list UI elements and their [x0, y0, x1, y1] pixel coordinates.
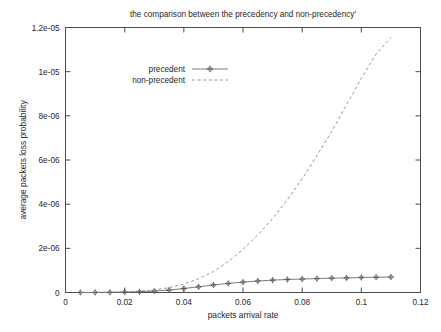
- y-tick-label: 2e-06: [39, 244, 60, 253]
- x-tick-label: 0.1: [356, 298, 368, 307]
- legend-label-precedent: precedent: [149, 65, 186, 74]
- x-tick-label: 0.02: [117, 298, 133, 307]
- x-tick-label: 0.04: [176, 298, 192, 307]
- x-tick-label: 0: [63, 298, 68, 307]
- y-tick-label: 8e-06: [39, 112, 60, 121]
- chart-title: the comparison between the precedency an…: [130, 10, 356, 19]
- y-tick-label: 0: [55, 289, 60, 298]
- x-tick-label: 0.06: [235, 298, 251, 307]
- x-tick-label: 0.12: [413, 298, 429, 307]
- y-axis-title: average packets loss probability: [18, 100, 28, 220]
- x-axis-title: packets arrival rate: [208, 310, 279, 320]
- y-tick-label: 4e-06: [39, 200, 60, 209]
- y-tick-label: 1.2e-05: [32, 24, 60, 33]
- chart-figure: the comparison between the precedency an…: [0, 0, 441, 332]
- y-tick-label: 6e-06: [39, 156, 60, 165]
- x-tick-label: 0.08: [294, 298, 310, 307]
- y-tick-label: 1e-05: [39, 68, 60, 77]
- chart-background: [0, 0, 441, 332]
- chart-canvas: the comparison between the precedency an…: [0, 0, 441, 332]
- legend-label-non-precedent: non-precedent: [132, 76, 186, 85]
